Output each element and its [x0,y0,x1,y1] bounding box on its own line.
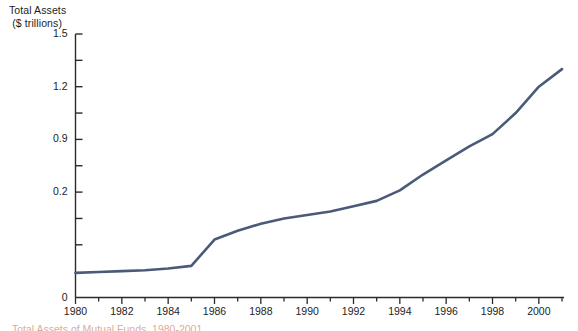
x-tick-label: 1998 [470,306,516,317]
y-tick-label: 0.9 [26,133,68,144]
x-tick-label: 1996 [423,306,469,317]
y-tick-label: 1.5 [26,28,68,39]
x-tick-label: 1990 [284,306,330,317]
y-tick-label: 0.2 [26,186,68,197]
x-tick-label: 1984 [145,306,191,317]
x-tick-label: 1982 [99,306,145,317]
x-tick-label: 1986 [192,306,238,317]
y-tick-label: 1.2 [26,81,68,92]
x-tick-label: 1988 [238,306,284,317]
x-tick-label: 1980 [53,306,99,317]
x-tick-label: 1994 [377,306,423,317]
x-tick-label: 1992 [331,306,377,317]
tick-marks [76,34,563,304]
y-tick-label: 0 [26,292,68,303]
axis-lines [76,34,565,298]
x-tick-label: 2000 [516,306,562,317]
figure-caption: Total Assets of Mutual Funds, 1980-2001 [12,323,202,331]
data-series-group [76,69,563,273]
